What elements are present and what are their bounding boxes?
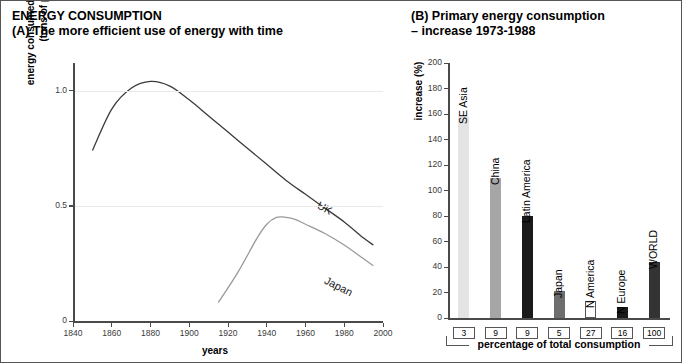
y-axis-title-line2: (tons of petroleum): [38, 0, 51, 96]
consumption-share-se-asia: 3: [453, 327, 475, 339]
y-tick-label: 160: [420, 108, 442, 118]
consumption-share-china: 9: [485, 327, 507, 339]
x-tick-label: 1960: [286, 328, 326, 338]
bar-label-se-asia: SE Asia: [457, 87, 469, 124]
x-tick: [344, 323, 345, 327]
panel-a-line-chart: energy consumed to yield $1000 GDP (tons…: [1, 1, 401, 363]
y-tick-label: 0: [43, 315, 67, 325]
x-tick-label: 1880: [131, 328, 171, 338]
gridline: [73, 91, 383, 92]
x-tick: [305, 323, 306, 327]
x-tick: [189, 323, 190, 327]
y-tick: [69, 90, 73, 91]
x-tick-label: 1940: [247, 328, 287, 338]
x-tick-label: 1980: [324, 328, 364, 338]
x-tick: [73, 323, 74, 327]
y-tick: [444, 241, 448, 242]
y-tick: [444, 139, 448, 140]
consumption-share-world: 100: [643, 327, 665, 339]
x-tick-label: 1840: [53, 328, 93, 338]
y-tick: [69, 321, 73, 322]
x-tick-label: 1920: [208, 328, 248, 338]
bar-label-n-europe: N Europe: [615, 269, 627, 313]
energy-consumption-figure: ENERGY CONSUMPTION (A) The more efficien…: [0, 0, 682, 363]
bar-china: [490, 178, 501, 318]
panel-a-y-axis-title: energy consumed to yield $1000 GDP (tons…: [25, 0, 50, 96]
gridline: [73, 206, 383, 207]
y-tick: [444, 165, 448, 166]
y-tick: [444, 63, 448, 64]
bracket-right-tick: [672, 336, 673, 346]
y-tick-label: 120: [420, 159, 442, 169]
x-tick-label: 1900: [169, 328, 209, 338]
y-tick-label: 100: [420, 185, 442, 195]
x-tick: [383, 323, 384, 327]
y-tick: [444, 318, 448, 319]
y-tick: [69, 205, 73, 206]
bar-label-china: China: [489, 157, 501, 184]
y-tick-label: 140: [420, 134, 442, 144]
consumption-share-n-america: 27: [580, 327, 602, 339]
consumption-share-latin-america: 9: [516, 327, 538, 339]
y-tick: [444, 292, 448, 293]
y-tick-label: 0: [420, 312, 442, 322]
panel-a-plot-area: UK Japan 00.51.0184018601880190019201940…: [73, 63, 383, 321]
bar-se-asia: [458, 117, 469, 318]
x-tick: [228, 323, 229, 327]
bracket-arm-right: [649, 345, 672, 346]
y-tick-label: 60: [420, 236, 442, 246]
y-tick-label: 180: [420, 83, 442, 93]
y-tick-label: 200: [420, 57, 442, 67]
panel-b-footer-caption: percentage of total consumption: [469, 338, 649, 350]
y-axis-title-line1: energy consumed to yield $1000 GDP: [25, 0, 38, 96]
bar-label-world: WORLD: [647, 230, 659, 269]
panel-b-y-axis: [448, 63, 450, 318]
y-tick-label: 20: [420, 287, 442, 297]
x-tick-label: 1860: [92, 328, 132, 338]
y-tick-label: 80: [420, 210, 442, 220]
consumption-share-japan: 5: [548, 327, 570, 339]
panel-a-y-axis: [73, 63, 75, 321]
y-tick: [444, 88, 448, 89]
bar-latin-america: [522, 216, 533, 318]
y-tick: [444, 216, 448, 217]
bar-world: [649, 262, 660, 318]
panel-a-x-axis-title: years: [202, 345, 228, 356]
x-tick-label: 2000: [363, 328, 403, 338]
y-tick-label: 40: [420, 261, 442, 271]
x-tick: [266, 323, 267, 327]
bar-label-latin-america: Latin America: [520, 159, 532, 223]
y-tick: [444, 114, 448, 115]
panel-b-x-axis: [448, 318, 670, 320]
y-tick-label: 0.5: [43, 200, 67, 210]
panel-b-plot-area: 020406080100120140160180200SE AsiaChinaL…: [448, 63, 670, 318]
y-tick-label: 1.0: [43, 85, 67, 95]
x-tick: [150, 323, 151, 327]
x-tick: [111, 323, 112, 327]
y-tick: [444, 267, 448, 268]
bar-label-japan: Japan: [552, 270, 564, 299]
bracket-arm-left: [446, 345, 469, 346]
bar-label-n-america: N America: [584, 260, 596, 308]
consumption-share-n-europe: 16: [611, 327, 633, 339]
uk-curve: [92, 81, 373, 245]
y-tick: [444, 190, 448, 191]
